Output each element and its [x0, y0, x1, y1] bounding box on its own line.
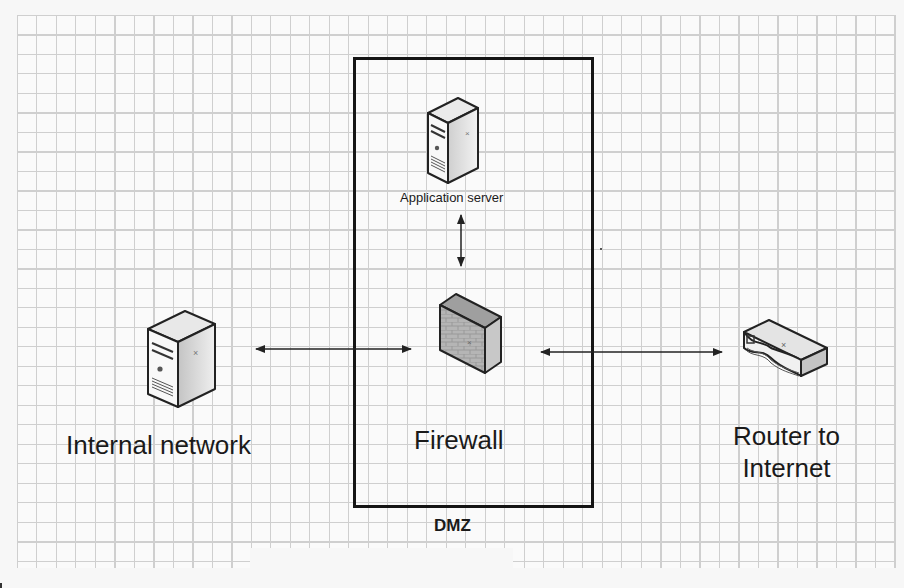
stray-dot — [600, 248, 602, 250]
diagram-canvas: × Application server × Firewall — [0, 0, 904, 588]
connectors-layer — [0, 0, 904, 588]
corner-mark — [0, 583, 2, 588]
dmz-label: DMZ — [434, 516, 471, 536]
